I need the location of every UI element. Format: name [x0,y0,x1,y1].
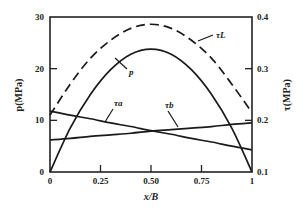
y-axis-right-title: τ(MPa) [281,79,293,111]
x-tick-label: 0.50 [143,176,159,186]
curve-τb [50,123,252,140]
curve-p [50,49,252,172]
curve-label-taub: τb [165,100,174,110]
plot-frame [50,17,252,172]
axes: 00.250.500.75101020300.10.20.30.4 [35,12,269,186]
x-tick-label: 1 [250,176,255,186]
curve-label-p: p [128,67,134,77]
y-tick-label-right: 0.4 [257,12,269,22]
x-tick-label: 0.25 [93,176,109,186]
x-tick-label: 0.75 [194,176,210,186]
y-tick-label-left: 10 [35,115,45,125]
y-tick-label-right: 0.3 [257,64,269,74]
curve-label-taua: τa [114,98,123,108]
x-tick-label: 0 [48,176,53,186]
y-tick-label-left: 20 [35,64,45,74]
curve-label-tauL-leader [198,35,213,41]
y-tick-label-left: 30 [35,12,45,22]
curves [50,24,252,172]
chart: 00.250.500.75101020300.10.20.30.4 pτLτaτ… [0,0,303,214]
curve-label-tauL: τL [216,30,226,40]
y-tick-label-left: 0 [40,167,45,177]
y-tick-label-right: 0.2 [257,115,269,125]
curve-labels: pτLτaτb [105,30,226,127]
curve-label-taub-leader [168,111,178,127]
chart-canvas: 00.250.500.75101020300.10.20.30.4 pτLτaτ… [0,0,303,214]
x-axis-title: x/B [143,191,159,202]
curve-label-taua-leader [105,109,113,122]
y-axis-left-title: p(MPa) [13,79,25,112]
y-tick-label-right: 0.1 [257,167,269,177]
